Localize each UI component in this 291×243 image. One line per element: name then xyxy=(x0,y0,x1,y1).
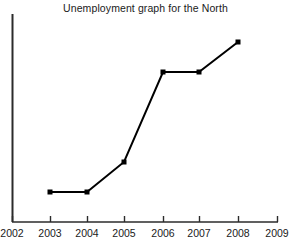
data-point-marker-2004 xyxy=(85,190,90,195)
x-axis-ticks xyxy=(13,216,278,222)
data-point-marker-2007 xyxy=(197,70,202,75)
data-point-marker-2006 xyxy=(161,70,166,75)
x-tick-label-2006: 2006 xyxy=(151,227,174,239)
x-tick-label-2008: 2008 xyxy=(226,227,249,239)
chart-screenshot: Unemployment graph for the North 2002200… xyxy=(0,0,291,243)
chart-plot-area xyxy=(0,0,291,243)
data-point-marker-2008 xyxy=(236,40,241,45)
x-tick-label-2004: 2004 xyxy=(75,227,98,239)
x-tick-label-2009: 2009 xyxy=(265,227,288,239)
x-tick-label-2002: 2002 xyxy=(0,227,23,239)
data-point-marker-2003 xyxy=(48,190,53,195)
x-tick-label-2005: 2005 xyxy=(112,227,135,239)
data-point-marker-2005 xyxy=(122,160,127,165)
series-line-unemployment xyxy=(50,42,238,192)
x-tick-label-2007: 2007 xyxy=(187,227,210,239)
x-tick-label-2003: 2003 xyxy=(38,227,61,239)
